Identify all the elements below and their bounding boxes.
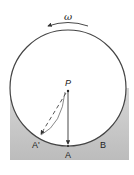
label-a: A xyxy=(65,150,71,160)
label-b: B xyxy=(100,140,106,150)
center-label: P xyxy=(65,78,71,88)
rotation-arrow-icon xyxy=(48,23,88,27)
label-a-prime: A' xyxy=(32,140,40,150)
omega-label: ω xyxy=(64,11,72,22)
rolling-circle-diagram: ω P A A' B xyxy=(0,0,134,175)
point-a xyxy=(67,145,69,147)
